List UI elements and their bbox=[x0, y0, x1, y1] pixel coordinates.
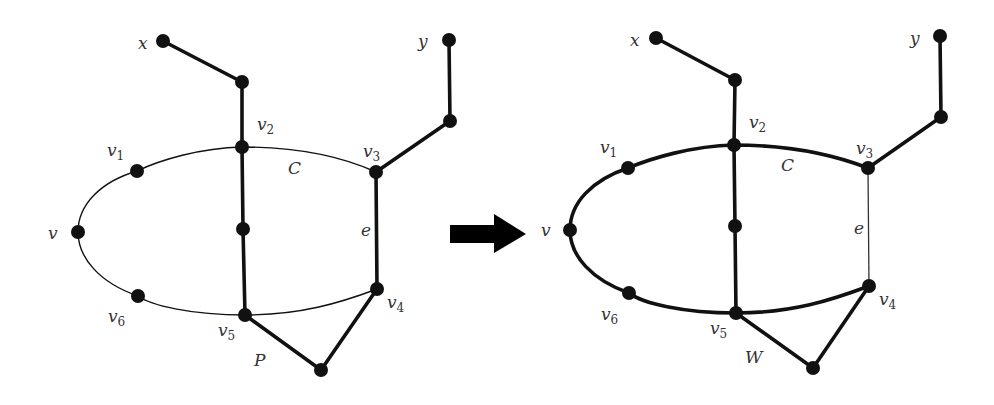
node-middle bbox=[236, 222, 250, 236]
node-y-neighbor bbox=[934, 110, 948, 124]
node-v3 bbox=[861, 161, 875, 175]
thin-edge-e bbox=[868, 168, 869, 286]
node-y bbox=[933, 29, 947, 43]
node-v5 bbox=[238, 308, 252, 322]
node-v bbox=[71, 225, 85, 239]
label-x: x bbox=[138, 33, 148, 53]
node-w-bottom bbox=[806, 361, 820, 375]
label-v5: v5 bbox=[218, 320, 235, 343]
node-v3 bbox=[369, 165, 383, 179]
label-v2: v2 bbox=[257, 114, 274, 137]
node-v2 bbox=[727, 138, 741, 152]
label-cycle-c: C bbox=[781, 155, 794, 175]
cycle-c-left bbox=[78, 147, 377, 315]
left-thick-edges bbox=[163, 40, 450, 370]
label-v: v bbox=[48, 223, 58, 243]
node-x-neighbor bbox=[728, 73, 742, 87]
node-v bbox=[563, 223, 577, 237]
node-v4 bbox=[370, 282, 384, 296]
right-graph: x y v v1 v2 v3 v4 v5 v6 C e W bbox=[541, 28, 948, 375]
label-edge-e: e bbox=[361, 220, 371, 240]
label-v6: v6 bbox=[601, 304, 618, 327]
node-v1 bbox=[621, 161, 635, 175]
node-v1 bbox=[130, 164, 144, 178]
node-y-neighbor bbox=[443, 114, 457, 128]
label-v4: v4 bbox=[387, 292, 405, 315]
node-x bbox=[649, 31, 663, 45]
label-v5: v5 bbox=[710, 318, 727, 341]
label-v4: v4 bbox=[879, 289, 897, 312]
label-v: v bbox=[541, 220, 551, 240]
node-v2 bbox=[235, 140, 249, 154]
label-v1: v1 bbox=[107, 140, 124, 163]
node-middle bbox=[728, 219, 742, 233]
label-v6: v6 bbox=[108, 306, 125, 329]
node-x bbox=[156, 34, 170, 48]
node-v4 bbox=[862, 279, 876, 293]
label-edge-e: e bbox=[854, 218, 864, 238]
label-cycle-c: C bbox=[288, 158, 301, 178]
graph-diagram: x y v v1 v2 v3 v4 v5 v6 C e P bbox=[0, 0, 994, 405]
left-graph: x y v v1 v2 v3 v4 v5 v6 C e P bbox=[48, 31, 457, 377]
node-v6 bbox=[131, 289, 145, 303]
node-p-bottom bbox=[314, 363, 328, 377]
label-x: x bbox=[630, 30, 640, 50]
label-path-w: W bbox=[745, 347, 764, 367]
right-thick-edges bbox=[656, 36, 941, 368]
node-y bbox=[442, 33, 456, 47]
node-v5 bbox=[729, 306, 743, 320]
label-v3: v3 bbox=[363, 141, 380, 164]
transform-arrow-icon bbox=[450, 214, 526, 253]
right-nodes bbox=[563, 29, 948, 375]
label-v3: v3 bbox=[856, 138, 873, 161]
node-v6 bbox=[622, 286, 636, 300]
label-y: y bbox=[417, 31, 428, 51]
label-y: y bbox=[909, 28, 920, 48]
label-v2: v2 bbox=[749, 112, 766, 135]
label-v1: v1 bbox=[600, 137, 617, 160]
cycle-c-right bbox=[570, 145, 869, 313]
label-path-p: P bbox=[253, 350, 266, 370]
node-x-neighbor bbox=[235, 75, 249, 89]
left-nodes bbox=[71, 33, 457, 377]
